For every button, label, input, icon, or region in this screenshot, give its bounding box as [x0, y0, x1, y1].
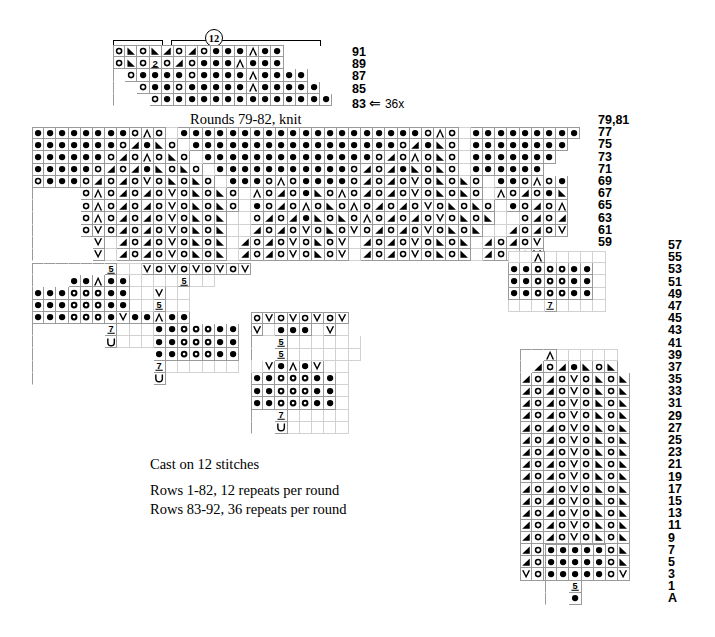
chart-cell[interactable]: [142, 188, 154, 200]
chart-cell[interactable]: [142, 237, 154, 249]
chart-cell[interactable]: [557, 556, 569, 568]
chart-cell[interactable]: [227, 237, 239, 249]
chart-cell[interactable]: [235, 45, 247, 57]
chart-cell[interactable]: [137, 69, 149, 81]
chart-cell[interactable]: [532, 176, 544, 188]
chart-cell[interactable]: [203, 249, 215, 261]
chart-cell[interactable]: [223, 57, 235, 69]
chart-cell[interactable]: [166, 176, 178, 188]
chart-cell[interactable]: [581, 349, 593, 361]
chart-cell[interactable]: [150, 82, 162, 94]
chart-cell[interactable]: [113, 45, 125, 57]
chart-cell[interactable]: [398, 200, 410, 212]
chart-cell[interactable]: [251, 139, 263, 151]
chart-cell[interactable]: [251, 385, 263, 397]
chart-cell[interactable]: [247, 82, 259, 94]
chart-cell[interactable]: [288, 324, 300, 336]
chart-cell[interactable]: [459, 249, 471, 261]
chart-cell[interactable]: [56, 151, 68, 163]
chart-cell[interactable]: [117, 127, 129, 139]
chart-cell[interactable]: [117, 237, 129, 249]
chart-cell[interactable]: [69, 300, 81, 312]
chart-cell[interactable]: [154, 127, 166, 139]
chart-cell[interactable]: [288, 139, 300, 151]
chart-cell[interactable]: [198, 57, 210, 69]
chart-cell[interactable]: [178, 225, 190, 237]
chart-cell[interactable]: [300, 336, 312, 348]
chart-cell[interactable]: [544, 520, 556, 532]
chart-cell[interactable]: [581, 398, 593, 410]
chart-cell[interactable]: [545, 556, 557, 568]
chart-cell[interactable]: [422, 237, 434, 249]
chart-cell[interactable]: [471, 139, 483, 151]
chart-cell[interactable]: [593, 373, 605, 385]
chart-cell[interactable]: [264, 127, 276, 139]
chart-cell[interactable]: [150, 45, 162, 57]
chart-cell[interactable]: [130, 336, 142, 348]
chart-cell[interactable]: [569, 251, 581, 263]
chart-cell[interactable]: [300, 324, 312, 336]
chart-cell[interactable]: [593, 507, 605, 519]
chart-cell[interactable]: [495, 249, 507, 261]
chart-cell[interactable]: [618, 471, 630, 483]
chart-cell[interactable]: [325, 237, 337, 249]
chart-cell[interactable]: [271, 57, 283, 69]
chart-cell[interactable]: [130, 127, 142, 139]
chart-cell[interactable]: [324, 397, 336, 409]
chart-cell[interactable]: [593, 520, 605, 532]
chart-cell[interactable]: [434, 164, 446, 176]
chart-cell[interactable]: [227, 249, 239, 261]
chart-cell[interactable]: [337, 139, 349, 151]
chart-cell[interactable]: [337, 164, 349, 176]
chart-cell[interactable]: [337, 127, 349, 139]
chart-cell[interactable]: [142, 151, 154, 163]
chart-cell[interactable]: [271, 69, 283, 81]
chart-cell[interactable]: [300, 397, 312, 409]
chart-cell[interactable]: [142, 336, 154, 348]
chart-cell[interactable]: [557, 263, 569, 275]
chart-cell[interactable]: [569, 361, 581, 373]
chart-cell[interactable]: [459, 188, 471, 200]
chart-cell[interactable]: [569, 386, 581, 398]
chart-cell[interactable]: [569, 483, 581, 495]
chart-cell[interactable]: [251, 212, 263, 224]
chart-cell[interactable]: [178, 176, 190, 188]
chart-cell[interactable]: [288, 397, 300, 409]
chart-cell[interactable]: [56, 300, 68, 312]
chart-cell[interactable]: [130, 212, 142, 224]
chart-cell[interactable]: [190, 263, 202, 275]
chart-cell[interactable]: [508, 275, 520, 287]
chart-cell[interactable]: [532, 373, 544, 385]
chart-cell[interactable]: [93, 164, 105, 176]
chart-cell[interactable]: [385, 200, 397, 212]
chart-cell[interactable]: [459, 225, 471, 237]
chart-cell[interactable]: [410, 212, 422, 224]
chart-cell[interactable]: [398, 249, 410, 261]
chart-cell[interactable]: [605, 471, 617, 483]
chart-cell[interactable]: [154, 287, 166, 299]
chart-cell[interactable]: [117, 176, 129, 188]
chart-cell[interactable]: [520, 176, 532, 188]
chart-cell[interactable]: [544, 176, 556, 188]
chart-cell[interactable]: 5: [569, 581, 581, 593]
chart-cell[interactable]: [508, 300, 520, 312]
chart-cell[interactable]: [557, 507, 569, 519]
chart-cell[interactable]: [32, 127, 44, 139]
chart-cell[interactable]: [582, 544, 594, 556]
chart-cell[interactable]: [154, 200, 166, 212]
chart-cell[interactable]: [276, 139, 288, 151]
chart-cell[interactable]: [264, 249, 276, 261]
chart-cell[interactable]: [296, 69, 308, 81]
chart-cell[interactable]: [227, 151, 239, 163]
chart-cell[interactable]: [471, 164, 483, 176]
chart-cell[interactable]: [284, 69, 296, 81]
chart-cell[interactable]: [190, 139, 202, 151]
chart-cell[interactable]: [130, 275, 142, 287]
chart-cell[interactable]: [398, 176, 410, 188]
chart-cell[interactable]: [520, 127, 532, 139]
chart-cell[interactable]: [324, 385, 336, 397]
chart-cell[interactable]: [44, 176, 56, 188]
chart-cell[interactable]: [556, 225, 568, 237]
chart-cell[interactable]: [142, 312, 154, 324]
chart-cell[interactable]: [178, 348, 190, 360]
